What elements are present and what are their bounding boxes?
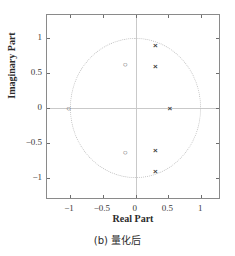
x-tick-top: [201, 15, 202, 18]
pole-marker: ×: [153, 166, 158, 175]
plot-area: ○○○×××××: [46, 14, 220, 199]
pole-marker: ×: [153, 41, 158, 50]
y-tick-label: 1: [38, 32, 43, 42]
x-tick-bottom: [168, 195, 169, 198]
x-tick-top: [70, 15, 71, 18]
x-tick-label: 1: [198, 203, 203, 213]
figure-caption: (b) 量化后: [0, 232, 235, 247]
x-tick-bottom: [136, 195, 137, 198]
figure-caption-text: (b) 量化后: [94, 235, 141, 246]
y-tick-label: −1: [32, 172, 42, 182]
zero-marker: ○: [66, 103, 71, 112]
y-tick-label: 0: [38, 102, 43, 112]
y-tick-left: [47, 73, 50, 74]
y-tick-label: −0.5: [26, 137, 42, 147]
pole-marker: ×: [167, 103, 172, 112]
x-tick-bottom: [70, 195, 71, 198]
y-tick-left: [47, 178, 50, 179]
y-tick-right: [216, 73, 219, 74]
y-tick-right: [216, 143, 219, 144]
x-tick-label: −0.5: [94, 203, 110, 213]
x-tick-label: −1: [64, 203, 74, 213]
x-tick-top: [136, 15, 137, 18]
y-tick-label: 0.5: [31, 67, 42, 77]
x-tick-top: [168, 15, 169, 18]
y-tick-left: [47, 108, 50, 109]
pole-marker: ×: [153, 145, 158, 154]
x-tick-bottom: [201, 195, 202, 198]
y-tick-right: [216, 38, 219, 39]
y-axis-label: Imaginary Part: [6, 11, 17, 121]
zero-marker: ○: [123, 147, 128, 156]
zero-marker: ○: [123, 59, 128, 68]
unit-circle: [70, 38, 201, 178]
x-tick-label: 0.5: [162, 203, 173, 213]
x-tick-bottom: [103, 195, 104, 198]
y-tick-left: [47, 143, 50, 144]
x-axis-label: Real Part: [46, 213, 220, 224]
pole-marker: ×: [153, 61, 158, 70]
pole-zero-figure: ○○○××××× −1−0.500.51 10.50−0.5−1 Real Pa…: [0, 0, 235, 256]
x-tick-top: [103, 15, 104, 18]
y-tick-right: [216, 108, 219, 109]
y-tick-left: [47, 38, 50, 39]
x-tick-label: 0: [132, 203, 137, 213]
y-tick-right: [216, 178, 219, 179]
